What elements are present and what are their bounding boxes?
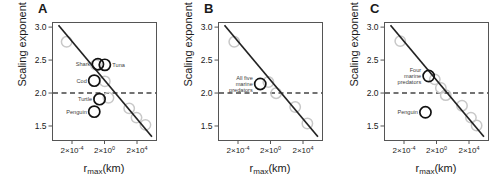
- data-point-highlighted[interactable]: [94, 94, 105, 105]
- data-point-label: Penguin: [66, 109, 87, 115]
- data-point-highlighted[interactable]: [423, 70, 434, 81]
- y-tick-label: 2.5: [367, 55, 379, 65]
- x-tick-exponent: 4: [310, 145, 313, 151]
- panel-c: CScaling exponent (β)rmax(km)3.02.52.01.…: [332, 0, 498, 185]
- x-tick-exponent: 0: [278, 145, 281, 151]
- trend-line: [59, 25, 152, 136]
- x-tick-label: 2×100: [94, 145, 115, 155]
- data-point-label-line: Shark: [76, 61, 91, 67]
- data-point-label-line: Penguin: [66, 109, 87, 115]
- data-point-label-line: predators: [229, 87, 253, 93]
- y-tick-label: 2.0: [201, 88, 213, 98]
- x-tick-label: 2×104: [458, 145, 479, 155]
- data-point-label-line: predators: [398, 79, 422, 85]
- x-tick-exponent: -4: [245, 145, 250, 151]
- data-point-label-line: Cod: [76, 78, 86, 84]
- x-axis-label: rmax(km): [384, 162, 488, 174]
- y-tick-label: 2.0: [367, 88, 379, 98]
- data-point-highlighted[interactable]: [89, 75, 100, 86]
- y-tick-label: 3.0: [367, 22, 379, 32]
- y-tick-label: 2.5: [35, 55, 47, 65]
- x-tick-label: 2×10-4: [61, 145, 84, 155]
- y-tick-label: 1.5: [367, 121, 379, 131]
- x-tick-mantissa: 2×10: [126, 146, 145, 155]
- x-tick-exponent: -4: [411, 145, 416, 151]
- x-tick-label: 2×10-4: [393, 145, 416, 155]
- x-axis-label-unit: (km): [434, 162, 456, 174]
- x-tick-mantissa: 2×10: [94, 146, 113, 155]
- x-axis-label-subscript: max: [253, 167, 268, 176]
- x-axis-label-subscript: max: [87, 167, 102, 176]
- data-point-label-line: Penguin: [397, 109, 418, 115]
- x-axis-label-unit: (km): [268, 162, 290, 174]
- y-tick-label: 1.5: [35, 121, 47, 131]
- y-tick-label: 3.0: [201, 22, 213, 32]
- x-tick-label: 2×104: [292, 145, 313, 155]
- x-tick-exponent: 4: [476, 145, 479, 151]
- x-tick-mantissa: 2×10: [393, 146, 412, 155]
- figure-three-panel-scatter: AScaling exponent (β)rmax(km)3.02.52.01.…: [0, 0, 499, 185]
- data-point-label-line: Turtle: [78, 96, 92, 102]
- x-tick-label: 2×100: [260, 145, 281, 155]
- plot-area-c: 3.02.52.01.52×10-42×1002×104Fourmarinepr…: [332, 0, 498, 160]
- x-tick-label: 2×10-4: [227, 145, 250, 155]
- x-tick-mantissa: 2×10: [260, 146, 279, 155]
- x-tick-exponent: 0: [444, 145, 447, 151]
- data-point-label: Tuna: [112, 62, 125, 68]
- x-axis-label: rmax(km): [52, 162, 156, 174]
- y-tick-label: 3.0: [35, 22, 47, 32]
- data-point-label: All fivemarinepredators: [229, 75, 253, 93]
- data-point-label: Fourmarinepredators: [398, 67, 422, 85]
- x-tick-mantissa: 2×10: [292, 146, 311, 155]
- data-point-highlighted[interactable]: [99, 59, 110, 70]
- y-tick-label: 1.5: [201, 121, 213, 131]
- data-point-highlighted[interactable]: [255, 78, 266, 89]
- x-tick-mantissa: 2×10: [458, 146, 477, 155]
- panel-b: BScaling exponent (β)rmax(km)3.02.52.01.…: [166, 0, 332, 185]
- x-tick-label: 2×100: [426, 145, 447, 155]
- plot-area-b: 3.02.52.01.52×10-42×1002×104All fivemari…: [166, 0, 332, 160]
- x-tick-mantissa: 2×10: [227, 146, 246, 155]
- x-tick-exponent: -4: [79, 145, 84, 151]
- x-tick-exponent: 0: [112, 145, 115, 151]
- x-tick-label: 2×104: [126, 145, 147, 155]
- x-tick-mantissa: 2×10: [61, 146, 80, 155]
- x-tick-mantissa: 2×10: [426, 146, 445, 155]
- x-axis-label: rmax(km): [218, 162, 322, 174]
- data-point-label-line: Tuna: [112, 62, 125, 68]
- x-axis-label-unit: (km): [102, 162, 124, 174]
- data-point-highlighted[interactable]: [420, 107, 431, 118]
- data-point-label: Turtle: [78, 96, 92, 102]
- data-point-highlighted[interactable]: [89, 106, 100, 117]
- y-tick-label: 2.5: [201, 55, 213, 65]
- plot-area-a: 3.02.52.01.52×10-42×1002×104SharkTunaCod…: [0, 0, 166, 160]
- y-tick-label: 2.0: [35, 88, 47, 98]
- data-point-label: Cod: [76, 78, 86, 84]
- data-point-label: Shark: [76, 61, 91, 67]
- panel-a: AScaling exponent (β)rmax(km)3.02.52.01.…: [0, 0, 166, 185]
- data-point-label: Penguin: [397, 109, 418, 115]
- x-axis-label-subscript: max: [419, 167, 434, 176]
- x-tick-exponent: 4: [144, 145, 147, 151]
